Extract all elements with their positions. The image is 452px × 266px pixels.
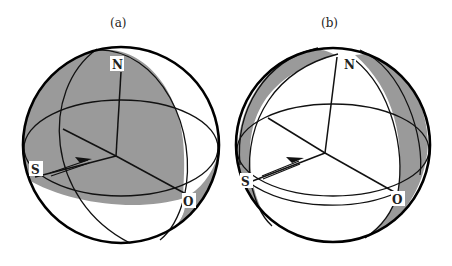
axis-back	[268, 118, 325, 153]
axis-origin	[325, 153, 396, 193]
figure-canvas: (a) N S	[0, 0, 452, 266]
label-origin: O	[183, 195, 193, 209]
label-south: S	[241, 175, 250, 189]
label-north: N	[344, 58, 355, 72]
panel-b-caption: (b)	[321, 16, 338, 30]
panel-b: (b) N S	[236, 16, 430, 242]
label-origin: O	[392, 193, 402, 207]
label-south: S	[31, 163, 40, 177]
panel-a-caption: (a)	[110, 16, 127, 30]
label-north: N	[112, 58, 123, 72]
axis-north	[325, 57, 337, 153]
panel-a: (a) N S	[22, 16, 219, 243]
